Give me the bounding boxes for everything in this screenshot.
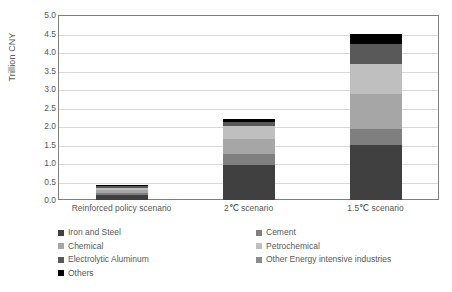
y-tick-label: 1.5 <box>26 140 56 149</box>
y-tick-label: 3.0 <box>26 85 56 94</box>
y-axis-tick-labels: 0.00.51.01.52.02.53.03.54.04.55.0 <box>26 0 56 215</box>
bar-segment <box>223 139 275 154</box>
legend-swatch-icon <box>256 257 262 263</box>
legend-column-right: CementPetrochemicalOther Energy intensiv… <box>256 226 446 267</box>
legend-item[interactable]: Iron and Steel <box>58 226 248 239</box>
legend-item[interactable]: Chemical <box>58 240 248 253</box>
y-tick-label: 3.5 <box>26 66 56 75</box>
bar-segment <box>350 34 402 44</box>
x-axis-tick-labels: Reinforced policy scenario2℃ scenario1.5… <box>58 202 439 220</box>
y-tick-label: 1.0 <box>26 159 56 168</box>
y-tick-label: 4.5 <box>26 29 56 38</box>
legend-swatch-icon <box>58 270 64 276</box>
legend-label: Chemical <box>68 242 103 251</box>
legend-item[interactable]: Petrochemical <box>256 240 446 253</box>
x-tick-label: 1.5℃ scenario <box>347 203 403 213</box>
x-tick-label: Reinforced policy scenario <box>72 203 172 213</box>
bar-segment <box>223 165 275 200</box>
bar-stack <box>96 185 148 200</box>
bar-segment <box>350 129 402 145</box>
legend-label: Other Energy intensive industries <box>266 255 391 264</box>
bar-segment <box>96 195 148 200</box>
y-tick-label: 0.0 <box>26 196 56 205</box>
legend-column-left: Iron and SteelChemicalElectrolytic Alumi… <box>58 226 248 280</box>
bar-segment <box>350 145 402 201</box>
y-tick-label: 2.5 <box>26 103 56 112</box>
legend-item[interactable]: Electrolytic Aluminum <box>58 253 248 266</box>
bar-segment <box>223 154 275 165</box>
legend-label: Others <box>68 269 94 278</box>
bar-segment <box>350 44 402 64</box>
legend-label: Iron and Steel <box>68 228 121 237</box>
bar-stack <box>350 34 402 200</box>
x-tick-label: 2℃ scenario <box>224 203 273 213</box>
bars-layer <box>58 15 439 200</box>
legend-item[interactable]: Others <box>58 267 248 280</box>
y-tick-label: 2.0 <box>26 122 56 131</box>
legend-swatch-icon <box>256 230 262 236</box>
bar-segment <box>223 126 275 139</box>
bar-segment <box>350 64 402 94</box>
legend-item[interactable]: Other Energy intensive industries <box>256 253 446 266</box>
legend-item[interactable]: Cement <box>256 226 446 239</box>
legend-swatch-icon <box>256 243 262 249</box>
bar-stack <box>223 119 275 200</box>
legend-swatch-icon <box>58 257 64 263</box>
legend-label: Electrolytic Aluminum <box>68 255 149 264</box>
legend-label: Cement <box>266 228 296 237</box>
y-axis-title: Trillion CNY <box>7 7 17 107</box>
legend-label: Petrochemical <box>266 242 320 251</box>
y-tick-label: 0.5 <box>26 177 56 186</box>
legend-swatch-icon <box>58 230 64 236</box>
y-tick-label: 4.0 <box>26 48 56 57</box>
y-tick-label: 5.0 <box>26 11 56 20</box>
legend-swatch-icon <box>58 243 64 249</box>
stacked-bar-chart: Trillion CNY 0.00.51.01.52.02.53.03.54.0… <box>0 0 452 292</box>
bar-segment <box>350 94 402 129</box>
chart-legend: Iron and SteelChemicalElectrolytic Alumi… <box>58 226 439 286</box>
